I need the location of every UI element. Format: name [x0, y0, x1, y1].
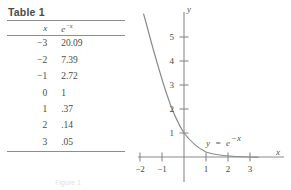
cell-y: 1	[55, 85, 125, 101]
table-title: Table 1	[6, 6, 136, 18]
x-tick-label: −1	[157, 164, 167, 174]
cell-x: −3	[7, 36, 55, 52]
y-tick-label: 4	[170, 56, 175, 66]
cell-x: −1	[7, 69, 55, 85]
cell-y: 2.72	[55, 69, 125, 85]
cell-x: 1	[7, 102, 55, 118]
curve-label-base: e	[226, 138, 230, 148]
y-tick-label: 2	[170, 104, 175, 114]
cell-y: 7.39	[55, 52, 125, 68]
table-row: 01	[7, 85, 125, 101]
table-row: −12.72	[7, 69, 125, 85]
table-row: −27.39	[7, 52, 125, 68]
cell-x: 3	[7, 134, 55, 150]
x-tick-label: −2	[136, 164, 145, 174]
x-tick-label: 1	[204, 164, 209, 174]
table-panel: Table 1 x e−x −320.09 −27.39 −12.72 01 1…	[6, 6, 136, 152]
data-table-body: −320.09 −27.39 −12.72 01 1.37 2.14 3.05	[7, 36, 125, 151]
y-tick-label: 3	[170, 80, 175, 90]
curve-label-lhs: y	[205, 138, 210, 148]
exponential-decay-plot: y x −3 −2 −1 1 2 3 1 2 3 4 5 y = e −x	[136, 0, 291, 190]
curve-equation-label: y = e −x	[205, 133, 241, 148]
cell-x: 2	[7, 118, 55, 134]
table-head: x e−x	[7, 21, 125, 35]
table-row: −320.09	[7, 36, 125, 52]
table-header-row: x e−x	[7, 21, 125, 35]
cell-x: 0	[7, 85, 55, 101]
curve-label-exponent: −x	[231, 133, 241, 143]
figure-root: Table 1 x e−x −320.09 −27.39 −12.72 01 1…	[0, 0, 291, 190]
cell-y: 20.09	[55, 36, 125, 52]
figure-caption: Figure 1	[0, 179, 136, 186]
y-tick-label: 5	[170, 32, 175, 42]
cell-x: −2	[7, 52, 55, 68]
y-tick-label: 1	[170, 128, 175, 138]
column-header-y: e−x	[55, 21, 125, 35]
column-header-x: x	[7, 21, 55, 35]
table-row: 2.14	[7, 118, 125, 134]
cell-y: .37	[55, 102, 125, 118]
table-rule-bottom	[7, 151, 125, 152]
graph-panel: y x −3 −2 −1 1 2 3 1 2 3 4 5 y = e −x	[136, 0, 291, 190]
column-header-y-exponent: −x	[65, 22, 72, 29]
x-tick-label: 2	[226, 164, 231, 174]
curve-label-equals: =	[215, 138, 221, 148]
cell-y: .05	[55, 134, 125, 150]
x-axis-label: x	[275, 147, 280, 157]
y-axis-label: y	[186, 4, 191, 14]
data-table: x e−x	[7, 21, 125, 35]
table-row: 3.05	[7, 134, 125, 150]
cell-y: .14	[55, 118, 125, 134]
table-row: 1.37	[7, 102, 125, 118]
x-tick-label: 3	[248, 164, 253, 174]
table-body: −320.09 −27.39 −12.72 01 1.37 2.14 3.05	[7, 36, 125, 151]
